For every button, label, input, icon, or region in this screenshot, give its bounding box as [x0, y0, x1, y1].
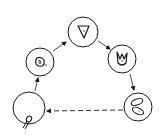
tailed-cell-icon: [23, 115, 33, 129]
edge-bottom-left-to-left: [35, 78, 38, 91]
edge-top-to-right: [98, 41, 110, 49]
rounded-cell-icon: [36, 57, 47, 66]
node-bottom-right: [124, 93, 152, 121]
edge-left-to-top: [53, 42, 66, 51]
node-top: [68, 17, 98, 47]
node-left: [26, 48, 54, 76]
node-bottom-left: [13, 92, 45, 129]
triangle-cell-icon: [78, 26, 89, 38]
edge-bottom-right-to-bottom-left: [47, 110, 123, 111]
cycle-diagram: [0, 0, 165, 138]
node-right: [108, 45, 136, 73]
forked-cell-icon: [117, 52, 127, 65]
split-cell-icon: [130, 97, 144, 116]
edge-right-to-bottom-right: [130, 74, 134, 90]
